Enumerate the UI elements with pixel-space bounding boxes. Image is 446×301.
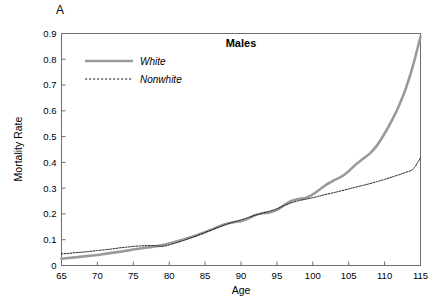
x-tick-label: 70	[92, 270, 103, 281]
data-series-layer	[62, 37, 421, 259]
x-axis-ticks	[62, 262, 421, 266]
x-tick-label: 105	[341, 270, 357, 281]
legend-label-white: White	[140, 56, 166, 67]
x-tick-label: 85	[200, 270, 211, 281]
chart-title: Males	[226, 37, 257, 49]
x-tick-label: 100	[305, 270, 321, 281]
series-line-white	[62, 37, 421, 259]
y-axis-ticks	[62, 34, 66, 266]
y-tick-label: 0.6	[43, 105, 56, 116]
x-tick-label: 95	[272, 270, 283, 281]
y-tick-label: 0.4	[43, 157, 56, 168]
series-line-nonwhite	[62, 158, 421, 254]
x-tick-label: 65	[56, 270, 67, 281]
mortality-rate-line-chart: 00.10.20.30.40.50.60.70.80.9 65707580859…	[0, 0, 446, 301]
y-axis-tick-labels: 00.10.20.30.40.50.60.70.80.9	[43, 28, 56, 271]
chart-legend: WhiteNonwhite	[85, 56, 182, 85]
x-tick-label: 80	[164, 270, 175, 281]
y-tick-label: 0.8	[43, 54, 56, 65]
x-tick-label: 110	[377, 270, 392, 281]
x-tick-label: 75	[128, 270, 139, 281]
y-tick-label: 0.2	[43, 208, 56, 219]
y-tick-label: 0.1	[43, 234, 56, 245]
y-axis-title: Mortality Rate	[12, 116, 24, 181]
y-tick-label: 0.9	[43, 28, 56, 39]
x-axis-tick-labels: 65707580859095100105110115	[56, 270, 428, 281]
y-tick-label: 0.3	[43, 183, 56, 194]
plot-frame	[62, 34, 421, 266]
y-tick-label: 0.7	[43, 79, 56, 90]
y-tick-label: 0.5	[43, 131, 56, 142]
x-tick-label: 115	[413, 270, 428, 281]
x-tick-label: 90	[236, 270, 247, 281]
legend-label-nonwhite: Nonwhite	[140, 74, 182, 85]
figure-panel-a: A 00.10.20.30.40.50.60.70.80.9 657075808…	[0, 0, 446, 301]
x-axis-title: Age	[232, 284, 251, 296]
